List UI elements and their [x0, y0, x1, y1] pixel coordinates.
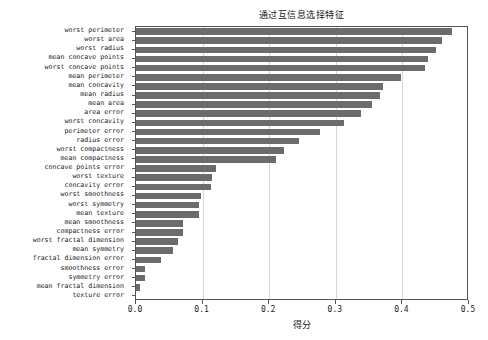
- x-tick-label: 0.5: [448, 305, 488, 315]
- y-tick-label: worst area: [84, 36, 124, 43]
- x-tick-mark: [202, 300, 203, 304]
- y-tick-label: worst perimeter: [64, 27, 124, 34]
- x-tick-label: 0.3: [315, 305, 355, 315]
- y-tick-label: mean smoothness: [64, 219, 124, 226]
- bar-row: [136, 202, 467, 209]
- bar-row: [136, 74, 467, 81]
- bar: [136, 275, 145, 282]
- bar: [136, 101, 372, 108]
- bar-row: [136, 129, 467, 136]
- bar: [136, 220, 183, 227]
- y-tick-label: mean radius: [80, 91, 124, 98]
- y-tick-label: concavity error: [64, 182, 124, 189]
- bar-row: [136, 257, 467, 264]
- bar-row: [136, 229, 467, 236]
- bar-row: [136, 156, 467, 163]
- bar: [136, 156, 276, 163]
- bar-row: [136, 83, 467, 90]
- bar-row: [136, 293, 467, 300]
- x-tick-mark: [135, 300, 136, 304]
- figure-canvas: 通过互信息选择特征 worst perimeterworst areaworst…: [0, 0, 488, 340]
- bar-row: [136, 184, 467, 191]
- bar-row: [136, 56, 467, 63]
- bar: [136, 284, 140, 291]
- bar-row: [136, 220, 467, 227]
- bar: [136, 56, 428, 63]
- y-tick-label: radius error: [76, 137, 124, 144]
- bar-row: [136, 110, 467, 117]
- bar-row: [136, 92, 467, 99]
- x-tick-label: 0.2: [248, 305, 288, 315]
- bar-row: [136, 37, 467, 44]
- y-tick-label: concave points error: [45, 164, 124, 171]
- y-tick-label: texture error: [72, 292, 124, 299]
- bar-row: [136, 284, 467, 291]
- bar: [136, 147, 284, 154]
- bar: [136, 47, 436, 54]
- y-tick-label: mean area: [88, 100, 124, 107]
- x-tick-mark: [401, 300, 402, 304]
- y-tick-label: mean texture: [76, 210, 124, 217]
- y-tick-label: symmetry error: [68, 274, 124, 281]
- y-tick-label: mean concave points: [49, 54, 124, 61]
- bar: [136, 83, 383, 90]
- y-tick-label: mean fractal dimension: [37, 283, 124, 290]
- y-tick-label: worst fractal dimension: [33, 237, 124, 244]
- y-tick-label: fractal dimension error: [33, 255, 124, 262]
- y-tick-label: worst radius: [76, 45, 124, 52]
- x-tick-label: 0.1: [182, 305, 222, 315]
- bar: [136, 238, 178, 245]
- y-tick-label: worst smoothness: [60, 191, 124, 198]
- bar-row: [136, 120, 467, 127]
- y-tick-label: mean compactness: [60, 155, 124, 162]
- bar: [136, 165, 216, 172]
- bar-row: [136, 47, 467, 54]
- bar-row: [136, 275, 467, 282]
- plot-area: [135, 26, 468, 300]
- y-tick-label: area error: [84, 109, 124, 116]
- bar-row: [136, 266, 467, 273]
- bar: [136, 184, 211, 191]
- y-tick-label: compactness error: [57, 228, 125, 235]
- x-tick-mark: [468, 300, 469, 304]
- y-tick-label: worst concavity: [64, 118, 124, 125]
- bar-row: [136, 174, 467, 181]
- x-tick-mark: [268, 300, 269, 304]
- bar: [136, 65, 425, 72]
- bar: [136, 174, 212, 181]
- y-tick-label: mean perimeter: [68, 73, 124, 80]
- bar-series: [136, 27, 467, 299]
- bar: [136, 202, 199, 209]
- bar: [136, 193, 201, 200]
- bar: [136, 129, 320, 136]
- bar: [136, 120, 344, 127]
- y-tick-label: worst compactness: [57, 146, 125, 153]
- bar-row: [136, 101, 467, 108]
- x-axis-label: 得分: [135, 318, 468, 331]
- bar: [136, 257, 161, 264]
- bar-row: [136, 238, 467, 245]
- bar: [136, 138, 299, 145]
- y-axis-tick-labels: worst perimeterworst areaworst radiusmea…: [0, 26, 130, 300]
- bar-row: [136, 165, 467, 172]
- bar: [136, 211, 199, 218]
- x-tick-label: 0.0: [115, 305, 155, 315]
- bar-row: [136, 247, 467, 254]
- bar: [136, 74, 401, 81]
- y-tick-label: mean concavity: [68, 82, 124, 89]
- bar: [136, 247, 173, 254]
- x-tick-mark: [335, 300, 336, 304]
- bar-row: [136, 65, 467, 72]
- bar: [136, 266, 145, 273]
- y-tick-label: smoothness error: [60, 265, 124, 272]
- y-tick-label: perimeter error: [64, 128, 124, 135]
- y-tick-label: mean symmetry: [72, 246, 124, 253]
- bar: [136, 92, 380, 99]
- bar-row: [136, 193, 467, 200]
- x-tick-label: 0.4: [381, 305, 421, 315]
- y-tick-label: worst symmetry: [68, 201, 124, 208]
- bar: [136, 229, 183, 236]
- bar-row: [136, 138, 467, 145]
- bar-row: [136, 147, 467, 154]
- bar-row: [136, 211, 467, 218]
